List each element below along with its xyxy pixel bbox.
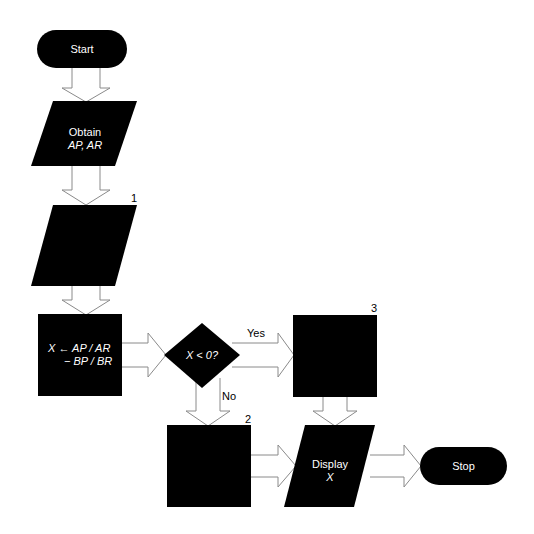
box3-number: 3 [371, 302, 377, 314]
obtain-label-line1: Obtain [40, 126, 130, 139]
arrow-display-to-stop [370, 445, 421, 487]
display-label-line1: Display [290, 458, 370, 471]
box2-number: 2 [245, 413, 251, 425]
compute-label-line2: − BP / BR [38, 355, 122, 368]
arrow-io1-to-compute [62, 286, 110, 315]
compute-label: X ← AP / AR − BP / BR [38, 342, 122, 368]
arrow-box3-to-display [313, 397, 357, 426]
arrow-start-to-obtain [62, 68, 110, 102]
no-edge-label: No [222, 390, 236, 402]
obtain-label: Obtain AP, AR [40, 126, 130, 152]
obtain-label-line2: AP, AR [40, 139, 130, 152]
yes-edge-label: Yes [247, 327, 265, 339]
arrow-yes-to-box3 [232, 333, 294, 377]
decision-label: X < 0? [172, 349, 232, 362]
arrow-obtain-to-io1 [62, 165, 110, 205]
compute-label-line1: X ← AP / AR [38, 342, 122, 355]
stop-label: Stop [420, 460, 507, 473]
io1-shape [31, 205, 137, 286]
flowchart-canvas [0, 0, 534, 534]
display-label: Display X [290, 458, 370, 484]
box3-process [293, 315, 377, 397]
start-label: Start [37, 43, 127, 56]
box2-process [167, 425, 251, 507]
display-label-line2: X [290, 471, 370, 484]
arrow-no-to-box2 [186, 378, 230, 426]
io1-number: 1 [131, 192, 137, 204]
arrow-compute-to-decision [122, 333, 166, 377]
